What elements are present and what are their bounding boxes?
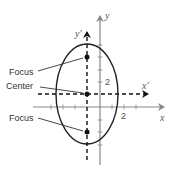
x-prime-axis-label: x' bbox=[141, 80, 149, 91]
center-point bbox=[85, 92, 90, 97]
y-axis bbox=[98, 16, 103, 165]
x-axis-label: x bbox=[159, 112, 165, 123]
focus-upper-point bbox=[85, 55, 90, 60]
y-axis-label: y bbox=[104, 10, 110, 21]
focus-lower-point bbox=[85, 130, 90, 135]
focus-upper-label: Focus bbox=[9, 67, 34, 77]
y-tick-label: 2 bbox=[105, 77, 110, 87]
x-tick-label: 2 bbox=[121, 111, 126, 121]
center-label: Center bbox=[6, 81, 33, 91]
x-axis bbox=[33, 105, 164, 110]
center-leader bbox=[40, 87, 83, 93]
focus-lower-label: Focus bbox=[9, 113, 34, 123]
y-prime-axis-label: y' bbox=[74, 28, 82, 39]
ellipse-diagram: Focus Center Focus y y' x' x 2 2 bbox=[0, 0, 170, 169]
